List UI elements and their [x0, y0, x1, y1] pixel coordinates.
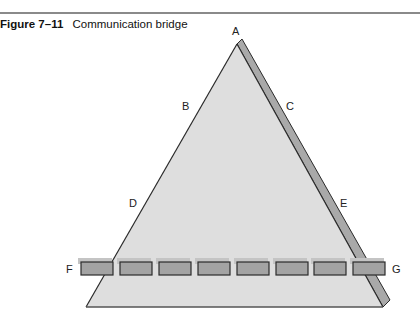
bridge-box [353, 262, 385, 275]
bridge-box [237, 262, 269, 275]
bridge-box [159, 262, 191, 275]
label-g: G [392, 263, 401, 275]
label-c: C [286, 100, 294, 112]
communication-bridge-diagram: A B C D E F G [0, 0, 420, 329]
label-f: F [66, 263, 73, 275]
bridge-box [198, 262, 230, 275]
label-b: B [182, 100, 189, 112]
label-e: E [340, 197, 347, 209]
label-d: D [129, 197, 137, 209]
label-a: A [232, 25, 240, 37]
bridge-box [81, 262, 113, 275]
bridge-box [314, 262, 346, 275]
bridge-box [276, 262, 308, 275]
bridge-box [120, 262, 152, 275]
